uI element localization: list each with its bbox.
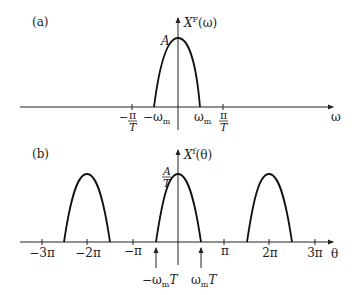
- diagram-canvas: (a) XF(ω) A − π T −ωm ωm π T ω (b): [0, 0, 356, 295]
- spectrum-replica-pos-2pi: [247, 174, 292, 242]
- xf-axis-label: XF(ω): [183, 15, 217, 30]
- panel-a-label: (a): [32, 15, 49, 29]
- tick-label-3pi: 3π: [307, 246, 323, 260]
- spectrum-curve-a: [154, 38, 200, 107]
- panel-a: (a) XF(ω) A − π T −ωm ωm π T ω: [20, 15, 341, 134]
- theta-axis-label: θ: [331, 247, 338, 261]
- peak-label-A: A: [160, 34, 170, 48]
- tick-label-neg-2pi: −2π: [75, 246, 101, 260]
- tick-label-neg-pi: −π: [124, 244, 142, 258]
- tick-label-neg-T: T: [129, 121, 138, 134]
- panel-b: (b) Xf(θ) A T −3π −2π −π π 2π 3π θ: [20, 147, 338, 289]
- panel-b-label: (b): [32, 147, 49, 161]
- tick-label-wm: ωm: [194, 110, 212, 126]
- xf-theta-axis-label: Xf(θ): [183, 147, 212, 162]
- tick-label-neg-3pi: −3π: [29, 246, 55, 260]
- tick-label-neg-wm: −ωm: [143, 110, 171, 126]
- annotation-neg-wmT: −ωmT: [142, 273, 178, 289]
- annotation-wmT: ωmT: [191, 273, 217, 289]
- spectrum-replica-neg-2pi: [64, 174, 110, 242]
- omega-axis-label: ω: [331, 110, 341, 124]
- tick-label-pi: π: [221, 244, 229, 258]
- tick-label-neg-sign: −: [119, 111, 128, 124]
- tick-label-pos-T: T: [220, 121, 229, 134]
- tick-label-2pi: 2π: [262, 246, 278, 260]
